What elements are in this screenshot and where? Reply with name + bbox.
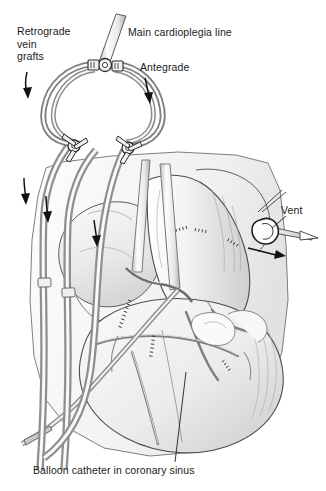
left-tube-flow-arrow — [21, 178, 30, 205]
label-balloon-catheter-in-coronary-sinus: Balloon catheter in coronary sinus — [33, 464, 195, 477]
label-main-cardioplegia-line: Main cardioplegia line — [128, 26, 232, 39]
label-vent: Vent — [281, 204, 302, 217]
label-retrograde-vein-grafts: Retrograde vein grafts — [17, 25, 71, 63]
vent-insertion-pursestring — [252, 218, 278, 244]
antegrade-limb-hl — [116, 64, 163, 146]
retrograde-limb — [43, 64, 93, 144]
vent-tube-tip — [300, 231, 318, 240]
surgical-illustration — [0, 0, 326, 491]
retrograde-flow-arrow — [23, 72, 32, 99]
y-connector-top — [88, 59, 123, 72]
label-antegrade: Antegrade — [140, 61, 189, 74]
main-cardioplegia-line — [99, 14, 126, 62]
